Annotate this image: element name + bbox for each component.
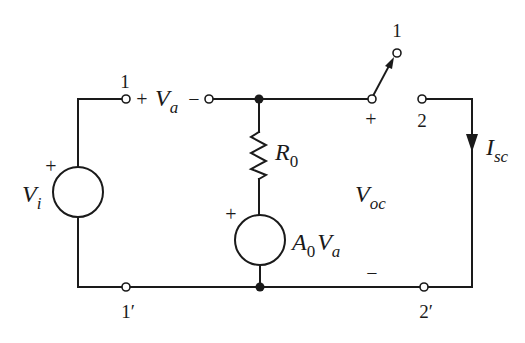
output-switch[interactable] [368, 49, 401, 103]
terminal-1-label: 1 [120, 71, 130, 92]
va-minus-sign: − [188, 88, 199, 110]
terminal-va-minus [205, 95, 213, 103]
terminal-1prime [122, 283, 130, 291]
switch-terminal-1 [393, 49, 401, 57]
terminal-2prime-label: 2′ [419, 301, 433, 322]
va-plus-sign: + [136, 88, 147, 110]
dependent-source-label: A0Va [290, 229, 340, 261]
voc-minus-sign: − [366, 262, 377, 284]
va-label: Va [155, 85, 178, 117]
input-voltage-source [53, 167, 103, 217]
circuit-diagram: + Vi 1 + Va − 1′ R0 + A0Va 1 + − Voc 2 2… [0, 0, 525, 343]
voc-plus-sign: + [365, 108, 376, 130]
terminal-1prime-label: 1′ [121, 301, 135, 322]
switch-terminal-1-label: 1 [392, 20, 402, 41]
junction-top [255, 95, 264, 104]
dependent-voltage-source [235, 215, 285, 265]
voc-label: Voc [355, 181, 386, 213]
dependent-source-plus: + [225, 203, 236, 225]
vi-plus-sign: + [45, 155, 56, 177]
terminal-2prime [420, 283, 428, 291]
switch-pivot [368, 95, 376, 103]
output-branch [235, 99, 285, 287]
resistor-r0 [251, 132, 266, 179]
junction-bottom [256, 283, 265, 292]
isc-arrow-icon [466, 134, 478, 152]
terminal-2 [418, 95, 426, 103]
terminal-1-input [122, 95, 130, 103]
isc-label: Isc [485, 134, 509, 166]
switch-arrow-icon [385, 57, 394, 69]
r0-label: R0 [274, 139, 298, 171]
terminal-2-label: 2 [417, 110, 427, 131]
short-circuit-path [426, 99, 478, 287]
vi-label: Vi [22, 181, 42, 213]
